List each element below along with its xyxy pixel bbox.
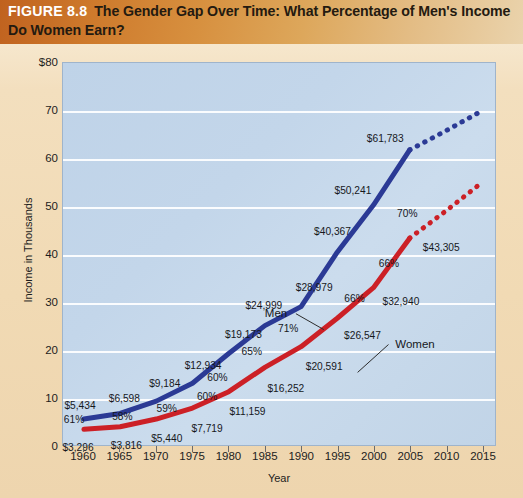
y-tick-10: 10 [6,392,58,404]
y-tick-0: 0 [6,440,58,452]
x-tick-1995: 1995 [325,450,351,462]
series-annotation-men: Men [265,307,287,319]
y-tick-70: 70 [6,104,58,116]
value-label-women-2000: $32,940 [382,295,419,306]
series-annotation-women: Women [395,338,434,350]
x-tick-1960: 1960 [70,450,96,462]
x-tick-1965: 1965 [107,450,133,462]
ratio-label-2000: 66% [379,257,399,268]
figure-banner: FIGURE 8.8The Gender Gap Over Time: What… [0,0,523,44]
x-tick-2000: 2000 [361,450,387,462]
value-label-women-1990: $20,591 [306,361,343,372]
value-label-men-2005: $61,783 [367,133,404,144]
ratio-label-1965: 58% [112,410,132,421]
value-label-men-1990: $28,979 [296,281,333,292]
women-leader-line [358,345,389,373]
value-label-men-1980: $19,173 [225,328,262,339]
x-tick-2010: 2010 [434,450,460,462]
ratio-label-2005: 70% [397,208,417,219]
value-label-women-1970: $5,440 [151,432,182,443]
ratio-label-1985: 65% [242,345,262,356]
ratio-label-1990: 71% [278,323,298,334]
value-label-women-1975: $7,719 [191,422,222,433]
value-label-men-1995: $40,367 [314,226,351,237]
value-label-women-1965: $3,816 [111,439,142,450]
figure-container: FIGURE 8.8The Gender Gap Over Time: What… [0,0,523,498]
x-axis-labels: 1960196519701975198019851990199520002005… [62,450,496,470]
x-axis-title: Year [62,472,496,484]
value-label-women-1995: $26,547 [344,329,381,340]
figure-number: FIGURE 8.8 [8,3,87,19]
ratio-label-1960: 61% [64,414,84,425]
projection-women [410,182,482,238]
ratio-label-1980: 60% [207,372,227,383]
figure-body: $80 70 60 50 40 30 20 10 0 Income in Tho… [0,44,523,498]
ratio-label-1970: 59% [157,402,177,413]
value-label-women-2005: $43,305 [423,242,460,253]
value-label-women-1980: $11,159 [229,406,265,417]
x-tick-2015: 2015 [470,450,496,462]
figure-title-block: FIGURE 8.8The Gender Gap Over Time: What… [8,2,519,40]
x-tick-1985: 1985 [252,450,278,462]
y-tick-20: 20 [6,344,58,356]
men-leader-line [296,314,324,330]
value-label-women-1985: $16,252 [267,382,304,393]
value-label-men-1970: $9,184 [149,377,180,388]
y-tick-80: $80 [6,56,58,68]
value-label-men-1960: $5,434 [64,399,95,410]
x-tick-2005: 2005 [397,450,423,462]
value-label-men-1965: $6,598 [109,393,140,404]
value-label-men-2000: $50,241 [334,184,371,195]
value-label-men-1975: $12,934 [185,359,222,370]
projection-men [410,111,482,150]
plot-area: $5,434$6,598$9,184$12,934$19,173$24,999$… [62,62,496,446]
ratio-label-1975: 60% [197,390,217,401]
x-tick-1990: 1990 [288,450,314,462]
x-tick-1980: 1980 [216,450,242,462]
x-tick-1970: 1970 [143,450,169,462]
y-axis-title: Income in Thousands [22,160,34,340]
x-tick-1975: 1975 [179,450,205,462]
ratio-label-1995: 66% [344,292,364,303]
